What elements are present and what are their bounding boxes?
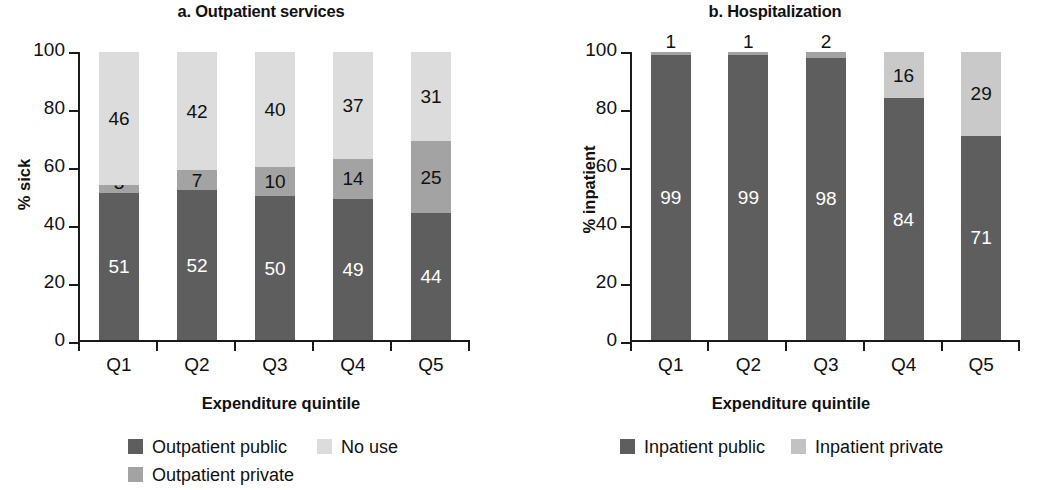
bar-slot-q1: 51 3 46 Q1 — [80, 52, 158, 340]
bar-slot-inpatient-q1: 99 1 Q1 — [632, 52, 710, 340]
segment-outpatient-private-q1[interactable]: 3 — [99, 185, 139, 194]
stacked-bar-q1[interactable]: 51 3 46 — [99, 52, 139, 340]
stacked-bar-inpatient-q3[interactable]: 98 2 — [806, 52, 846, 340]
segment-no-use-q4[interactable]: 37 — [333, 52, 373, 159]
segment-outpatient-private-q3[interactable]: 10 — [255, 167, 295, 196]
stacked-bar-inpatient-q1[interactable]: 99 1 — [651, 52, 691, 340]
segment-outpatient-private-q2[interactable]: 7 — [177, 170, 217, 190]
segment-outpatient-public-q3[interactable]: 50 — [255, 196, 295, 340]
segment-outpatient-public-q5[interactable]: 44 — [411, 213, 451, 340]
stacked-bar-q5[interactable]: 44 25 31 — [411, 52, 451, 340]
legend-swatch-inpatient-private-icon — [791, 439, 806, 454]
stacked-bar-q3[interactable]: 50 10 40 — [255, 52, 295, 340]
panel-a-x-axis-line — [78, 340, 470, 342]
panel-a-title: a. Outpatient services — [0, 2, 522, 21]
segment-value-inpatient-public-q5: 71 — [971, 228, 992, 247]
xtick-label-inpatient-q2: Q2 — [736, 354, 761, 376]
segment-value-public-q1: 51 — [108, 257, 129, 276]
segment-inpatient-private-q4[interactable]: 16 — [884, 52, 924, 98]
panel-b-ytick-label-20: 20 — [596, 272, 617, 291]
panel-a-xtick-4 — [390, 342, 392, 351]
segment-value-private-q5: 25 — [420, 168, 441, 187]
stacked-bar-inpatient-q2[interactable]: 99 1 — [728, 52, 768, 340]
stacked-bar-q2[interactable]: 52 7 42 — [177, 52, 217, 340]
stacked-bar-inpatient-q5[interactable]: 71 29 — [961, 52, 1001, 340]
bar-slot-inpatient-q5: 71 29 Q5 — [942, 52, 1020, 340]
panel-a-ytick-label-60: 60 — [44, 156, 65, 175]
xtick-label-q4: Q4 — [340, 354, 365, 376]
segment-inpatient-private-q5[interactable]: 29 — [961, 52, 1001, 136]
segment-no-use-q1[interactable]: 46 — [99, 52, 139, 184]
bar-slot-inpatient-q4: 84 16 Q4 — [865, 52, 943, 340]
legend-item-inpatient-private[interactable]: Inpatient private — [791, 437, 943, 455]
segment-value-inpatient-private-q4: 16 — [893, 66, 914, 85]
panel-a-x-axis-title: Expenditure quintile — [20, 394, 542, 413]
segment-value-nouse-q2: 42 — [186, 102, 207, 121]
segment-value-public-q4: 49 — [342, 260, 363, 279]
panel-a-legend-row-2: Outpatient private — [128, 465, 528, 490]
segment-inpatient-private-q3[interactable]: 2 — [806, 52, 846, 58]
panel-a-plot-area: 100 80 60 40 20 0 — [78, 52, 470, 342]
panel-b-plot-area: 100 80 60 40 20 0 — [630, 52, 1020, 342]
xtick-label-inpatient-q4: Q4 — [891, 354, 916, 376]
segment-inpatient-public-q3[interactable]: 98 — [806, 58, 846, 340]
xtick-label-q2: Q2 — [184, 354, 209, 376]
panel-b-ytick-label-40: 40 — [596, 214, 617, 233]
legend-item-inpatient-public[interactable]: Inpatient public — [620, 437, 765, 455]
panel-b-ytick-label-60: 60 — [596, 156, 617, 175]
panel-a-bars: 51 3 46 Q1 52 — [80, 52, 470, 340]
bar-slot-q3: 50 10 40 Q3 — [236, 52, 314, 340]
segment-value-private-q3: 10 — [264, 172, 285, 191]
segment-inpatient-private-q2[interactable]: 1 — [728, 52, 768, 55]
legend-swatch-inpatient-public-icon — [620, 439, 635, 454]
stacked-bar-inpatient-q4[interactable]: 84 16 — [884, 52, 924, 340]
segment-inpatient-public-q4[interactable]: 84 — [884, 98, 924, 340]
legend-label-outpatient-public: Outpatient public — [152, 438, 287, 456]
segment-no-use-q5[interactable]: 31 — [411, 52, 451, 141]
panel-b-ytick-label-0: 0 — [606, 330, 617, 349]
xtick-label-inpatient-q3: Q3 — [813, 354, 838, 376]
panel-a-xtick-0 — [78, 342, 80, 351]
segment-value-inpatient-private-q2: 1 — [743, 32, 754, 51]
panel-a-ytick-label-20: 20 — [44, 272, 65, 291]
panel-b-ytick-label-80: 80 — [596, 98, 617, 117]
panel-b-x-axis-line — [630, 340, 1020, 342]
segment-value-inpatient-public-q3: 98 — [815, 189, 836, 208]
panel-b-xtick-1 — [707, 342, 709, 351]
legend-item-outpatient-private[interactable]: Outpatient private — [128, 465, 294, 483]
panel-b-xtick-3 — [863, 342, 865, 351]
panel-b-xtick-5 — [1018, 342, 1020, 351]
segment-value-inpatient-private-q3: 2 — [821, 32, 832, 51]
segment-no-use-q2[interactable]: 42 — [177, 52, 217, 170]
segment-value-public-q3: 50 — [264, 259, 285, 278]
panel-b-xtick-2 — [785, 342, 787, 351]
chart-panel-outpatient-services: a. Outpatient services % sick 100 80 60 … — [0, 0, 522, 490]
legend-item-outpatient-public[interactable]: Outpatient public — [128, 437, 287, 455]
panel-a-ytick-label-0: 0 — [54, 330, 65, 349]
xtick-label-inpatient-q1: Q1 — [658, 354, 683, 376]
legend-swatch-outpatient-public-icon — [128, 439, 143, 454]
segment-value-nouse-q5: 31 — [420, 87, 441, 106]
panel-a-xtick-2 — [234, 342, 236, 351]
segment-outpatient-public-q4[interactable]: 49 — [333, 199, 373, 340]
segment-outpatient-private-q4[interactable]: 14 — [333, 159, 373, 199]
segment-inpatient-public-q1[interactable]: 99 — [651, 55, 691, 340]
legend-label-inpatient-public: Inpatient public — [644, 438, 765, 456]
segment-inpatient-private-q1[interactable]: 1 — [651, 52, 691, 55]
segment-inpatient-public-q5[interactable]: 71 — [961, 136, 1001, 340]
segment-no-use-q3[interactable]: 40 — [255, 52, 295, 167]
segment-value-inpatient-public-q4: 84 — [893, 210, 914, 229]
segment-outpatient-public-q1[interactable]: 51 — [99, 193, 139, 340]
stacked-bar-q4[interactable]: 49 14 37 — [333, 52, 373, 340]
segment-inpatient-public-q2[interactable]: 99 — [728, 55, 768, 340]
legend-label-outpatient-private: Outpatient private — [152, 466, 294, 484]
segment-outpatient-public-q2[interactable]: 52 — [177, 190, 217, 340]
segment-value-nouse-q4: 37 — [342, 96, 363, 115]
panel-a-xtick-1 — [156, 342, 158, 351]
xtick-label-q5: Q5 — [418, 354, 443, 376]
panel-b-legend: Inpatient public Inpatient private — [620, 437, 1044, 465]
segment-outpatient-private-q5[interactable]: 25 — [411, 141, 451, 213]
panel-b-xtick-0 — [630, 342, 632, 351]
panel-a-xtick-3 — [312, 342, 314, 351]
legend-item-no-use[interactable]: No use — [317, 437, 398, 455]
